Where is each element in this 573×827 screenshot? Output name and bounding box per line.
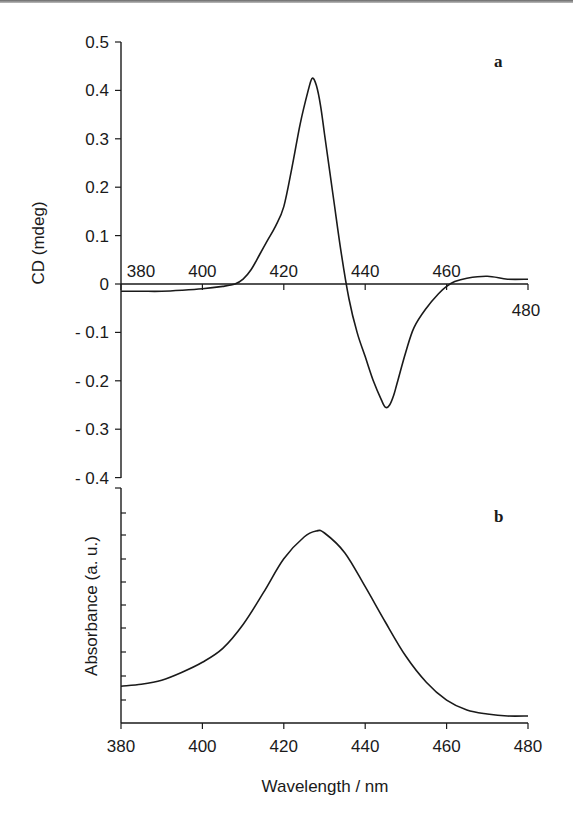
y-tick-label: 0.5 [85, 33, 109, 52]
x-tick-label: 440 [351, 262, 379, 281]
cd-curve [121, 78, 528, 407]
y-tick-label: 0 [100, 275, 109, 294]
y-tick-label: - 0.4 [75, 469, 109, 488]
panel-a-y-ticks: 0.50.40.30.20.10- 0.1- 0.2- 0.3- 0.4 [75, 33, 121, 488]
y-tick-label: 0.3 [85, 130, 109, 149]
x-tick-label: 380 [107, 737, 135, 756]
panel-b-y-axis-title: Absorbance (a. u.) [82, 536, 101, 676]
panel-b: 380400420440460480 b Absorbance (a. u.) … [82, 488, 542, 796]
y-tick-label: - 0.2 [75, 372, 109, 391]
panel-b-label: b [494, 507, 503, 526]
y-tick-label: 0.4 [85, 81, 109, 100]
panel-a: 0.50.40.30.20.10- 0.1- 0.2- 0.3- 0.4 380… [29, 33, 540, 488]
cd-absorbance-figure: 0.50.40.30.20.10- 0.1- 0.2- 0.3- 0.4 380… [0, 0, 573, 827]
y-tick-label: - 0.1 [75, 323, 109, 342]
x-tick-label: 420 [270, 262, 298, 281]
x-axis-title: Wavelength / nm [262, 777, 389, 796]
x-tick-label: 440 [351, 737, 379, 756]
absorbance-curve [121, 530, 528, 716]
y-tick-label: 0.1 [85, 227, 109, 246]
x-tick-label: 480 [512, 301, 540, 320]
x-tick-label: 420 [270, 737, 298, 756]
x-tick-label: 380 [127, 262, 155, 281]
x-tick-label: 460 [432, 737, 460, 756]
x-tick-label: 400 [188, 737, 216, 756]
x-tick-label: 460 [432, 262, 460, 281]
panel-b-x-ticks: 380400420440460480 [107, 723, 542, 756]
y-tick-label: - 0.3 [75, 420, 109, 439]
y-tick-label: 0.2 [85, 178, 109, 197]
x-tick-label: 400 [188, 262, 216, 281]
x-tick-label: 480 [514, 737, 542, 756]
panel-a-label: a [494, 52, 503, 71]
panel-a-y-axis-title: CD (mdeg) [29, 201, 48, 284]
panel-a-x-ticks: 380400420440460480 [121, 262, 540, 320]
